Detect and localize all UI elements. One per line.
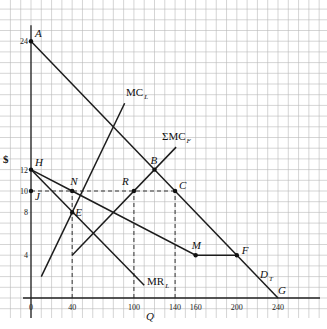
point-label-j: J — [35, 190, 41, 202]
x-tick-label: 100 — [128, 303, 140, 312]
point-h — [29, 167, 33, 171]
point-label-e: E — [74, 206, 82, 218]
point-c — [173, 189, 177, 193]
point-label-b: B — [151, 154, 158, 166]
point-e — [70, 210, 74, 214]
x-tick-label: 240 — [272, 303, 284, 312]
chart-container: ABCEFGHJMNR 04010014016020024048101224 D… — [0, 0, 327, 329]
point-label-f: F — [241, 244, 249, 256]
point-b — [152, 167, 156, 171]
point-label-m: M — [191, 239, 202, 251]
point-label-a: A — [34, 27, 42, 39]
curve-label-subscript: F — [186, 137, 192, 145]
x-tick-label: 200 — [231, 303, 243, 312]
y-tick-label: 24 — [20, 37, 28, 46]
curve-label-mc_l: MCL — [126, 86, 148, 101]
y-tick-label: 10 — [20, 187, 28, 196]
curve-label-mr_l: MRL — [147, 275, 169, 290]
curve-label-summc_f: ΣMCF — [162, 130, 192, 145]
curve-label-subscript: L — [143, 93, 148, 101]
y-tick-label: 8 — [24, 208, 28, 217]
axes — [23, 25, 320, 318]
x-tick-label: 40 — [68, 303, 76, 312]
point-label-g: G — [278, 284, 286, 296]
y-tick-label: 12 — [20, 166, 28, 175]
curve-mc_l — [41, 103, 124, 276]
x-axis-label: Q — [146, 310, 154, 322]
y-tick-label: 4 — [24, 251, 28, 260]
curve-labels: DTMRLMCLΣMCF — [126, 86, 274, 290]
point-j — [29, 189, 33, 193]
point-m — [193, 253, 197, 257]
curve-summc_f — [72, 147, 176, 255]
curve-label-subscript: T — [269, 275, 274, 283]
y-axis-label: $ — [3, 153, 9, 165]
point-n — [70, 189, 74, 193]
curve-label-subscript: L — [164, 282, 169, 290]
point-r — [132, 189, 136, 193]
point-f — [235, 253, 239, 257]
x-tick-label: 0 — [29, 303, 33, 312]
point-label-c: C — [179, 179, 187, 191]
point-a — [29, 39, 33, 43]
chart-svg: ABCEFGHJMNR 04010014016020024048101224 D… — [0, 0, 327, 329]
point-label-h: H — [34, 156, 44, 168]
tick-labels: 04010014016020024048101224 — [20, 37, 284, 312]
x-tick-label: 160 — [190, 303, 202, 312]
point-label-n: N — [69, 175, 78, 187]
grid — [0, 0, 327, 318]
point-label-r: R — [121, 175, 129, 187]
x-tick-label: 140 — [169, 303, 181, 312]
